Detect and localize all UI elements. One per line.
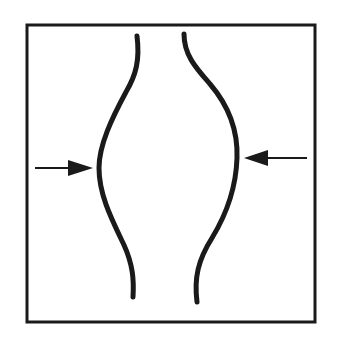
left-arrow-head xyxy=(68,160,93,176)
right-arrow-head xyxy=(244,150,268,166)
left-curve xyxy=(99,36,138,297)
right-arrow-icon xyxy=(244,150,307,166)
compression-diagram xyxy=(0,0,343,348)
left-arrow-icon xyxy=(35,160,93,176)
right-curve xyxy=(184,34,237,302)
